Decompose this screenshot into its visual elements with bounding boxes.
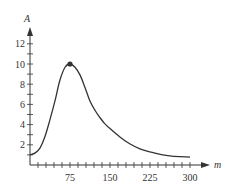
x-axis-label: m xyxy=(214,159,221,170)
chart: A m 24681012 75150225300 xyxy=(0,0,232,191)
x-tick-label: 150 xyxy=(103,172,118,183)
x-tick-labels: 75150225300 xyxy=(65,172,198,183)
y-tick-label: 4 xyxy=(20,119,25,130)
y-tick-label: 6 xyxy=(20,99,25,110)
x-tick-label: 300 xyxy=(183,172,198,183)
x-tick-label: 75 xyxy=(65,172,75,183)
y-tick-label: 8 xyxy=(20,79,25,90)
data-curve xyxy=(30,64,190,157)
y-tick-label: 12 xyxy=(15,38,25,49)
y-axis-arrow-icon xyxy=(27,27,33,36)
y-axis-label: A xyxy=(23,13,31,24)
peak-point xyxy=(67,61,72,66)
y-tick-labels: 24681012 xyxy=(15,38,25,150)
x-axis-arrow-icon xyxy=(201,162,210,168)
y-tick-label: 2 xyxy=(20,139,25,150)
x-tick-label: 225 xyxy=(143,172,158,183)
y-tick-label: 10 xyxy=(15,59,25,70)
